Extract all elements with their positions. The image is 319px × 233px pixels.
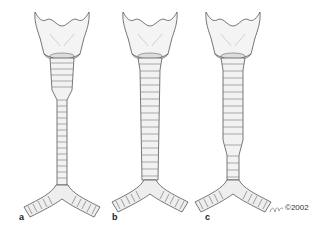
artist-signature-scribble [270,208,283,212]
panel-label-a: a [19,212,24,222]
panel-label-c: c [205,212,210,222]
trachea-panel-a [24,12,100,217]
copyright-signature: ©2002 [285,203,309,212]
panel-label-b: b [112,212,118,222]
trachea-panel-c [195,12,283,212]
trachea-panel-b [112,12,188,212]
trachea-illustration [0,0,319,233]
